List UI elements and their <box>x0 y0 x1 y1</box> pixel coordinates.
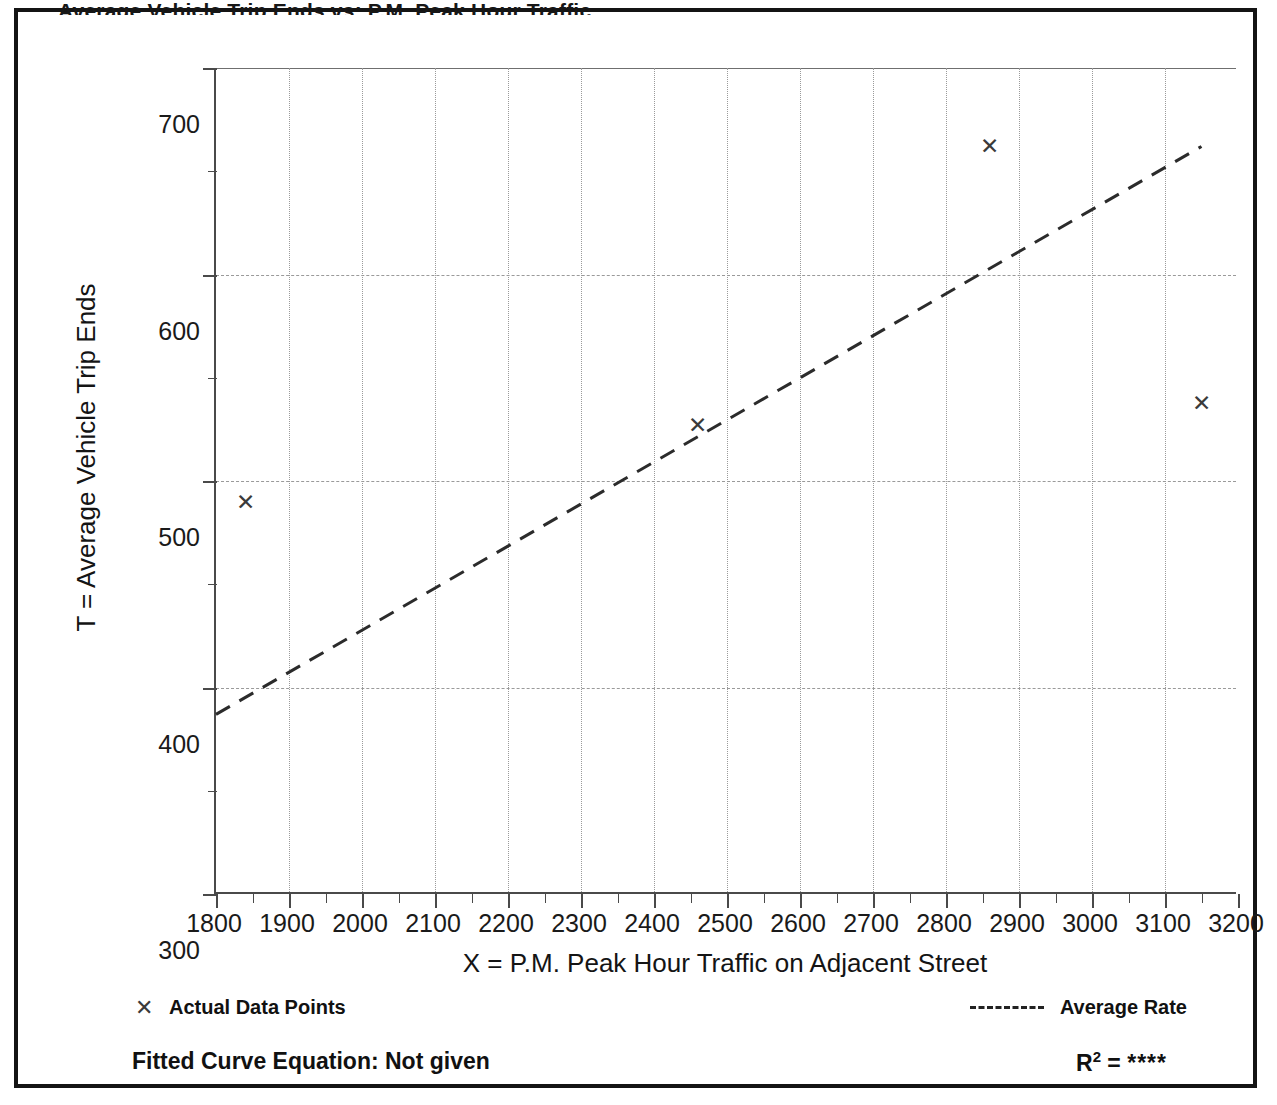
r-squared-label: R <box>1076 1050 1093 1076</box>
x-tick-label: 3000 <box>1062 909 1118 938</box>
x-tick <box>1092 894 1094 908</box>
page-title: Average Vehicle Trip Ends vs: P.M. Peak … <box>58 0 591 15</box>
x-tick-label: 2300 <box>551 909 607 938</box>
x-tick-minor <box>253 894 254 903</box>
x-axis-title: X = P.M. Peak Hour Traffic on Adjacent S… <box>214 948 1236 979</box>
y-axis-title: T = Average Vehicle Trip Ends <box>71 178 102 738</box>
y-tick-label: 600 <box>158 316 200 345</box>
gridline-vertical <box>508 68 509 892</box>
x-tick <box>435 894 437 908</box>
x-tick <box>289 894 291 908</box>
chart-frame: Average Vehicle Trip Ends vs: P.M. Peak … <box>14 8 1257 1088</box>
r-squared-exponent: 2 <box>1093 1048 1101 1065</box>
r-squared-annotation: R2 = **** <box>1076 1048 1167 1077</box>
x-tick-minor <box>1202 894 1203 903</box>
x-tick-minor <box>910 894 911 903</box>
y-tick <box>203 894 217 896</box>
average-rate-trendline <box>216 68 1236 892</box>
x-tick <box>581 894 583 908</box>
legend-item-actual-data-points: ✕ Actual Data Points <box>135 996 346 1019</box>
x-tick-minor <box>326 894 327 903</box>
x-tick-label: 2800 <box>916 909 972 938</box>
gridline-vertical <box>1092 68 1093 892</box>
x-tick <box>654 894 656 908</box>
x-tick-label: 2100 <box>405 909 461 938</box>
x-tick <box>800 894 802 908</box>
x-tick-label: 2700 <box>843 909 899 938</box>
x-tick <box>727 894 729 908</box>
legend-label-average-rate: Average Rate <box>1060 996 1187 1019</box>
chart-legend: ✕ Actual Data Points Average Rate <box>32 996 1275 1036</box>
x-tick-label: 1800 <box>186 909 242 938</box>
x-tick-label: 2600 <box>770 909 826 938</box>
x-tick <box>946 894 948 908</box>
gridline-vertical <box>654 68 655 892</box>
y-tick-minor <box>208 791 217 792</box>
x-tick-minor <box>618 894 619 903</box>
data-point-marker: ✕ <box>1191 392 1213 414</box>
x-axis-tick-labels: 1800190020002100220023002400250026002700… <box>214 909 1236 943</box>
gridline-vertical <box>946 68 947 892</box>
y-tick-label: 300 <box>158 936 200 965</box>
x-tick-label: 2500 <box>697 909 753 938</box>
dashed-line-icon <box>970 1006 1044 1009</box>
legend-label-actual-data-points: Actual Data Points <box>169 996 346 1019</box>
gridline-vertical <box>873 68 874 892</box>
gridline-vertical <box>289 68 290 892</box>
y-tick-minor <box>208 378 217 379</box>
r-squared-value: **** <box>1127 1050 1167 1076</box>
x-tick <box>873 894 875 908</box>
y-axis-tick-labels: 300400500600700 <box>118 68 200 894</box>
x-tick-minor <box>1056 894 1057 903</box>
x-tick <box>216 894 218 908</box>
chart-footer: Fitted Curve Equation: Not given R2 = **… <box>32 1048 1275 1092</box>
plot-top-border <box>216 68 1236 69</box>
x-tick-minor <box>545 894 546 903</box>
gridline-vertical <box>800 68 801 892</box>
gridline-vertical <box>1019 68 1020 892</box>
plot-area: ✕✕✕✕ <box>214 68 1236 894</box>
x-tick-label: 2000 <box>332 909 388 938</box>
gridline-horizontal <box>216 688 1236 689</box>
x-tick-minor <box>691 894 692 903</box>
x-tick-label: 3100 <box>1135 909 1191 938</box>
data-point-marker: ✕ <box>979 135 1001 157</box>
r-squared-equals: = <box>1107 1050 1120 1076</box>
x-tick-label: 2900 <box>989 909 1045 938</box>
gridline-vertical <box>727 68 728 892</box>
data-point-marker: ✕ <box>234 491 256 513</box>
y-tick-label: 500 <box>158 523 200 552</box>
x-tick-minor <box>837 894 838 903</box>
x-tick-minor <box>983 894 984 903</box>
x-marker-icon: ✕ <box>135 997 153 1019</box>
x-tick-minor <box>399 894 400 903</box>
y-tick <box>203 275 217 277</box>
gridline-horizontal <box>216 275 1236 276</box>
x-tick <box>1238 894 1240 908</box>
gridline-vertical <box>362 68 363 892</box>
y-tick <box>203 68 217 70</box>
x-tick-label: 3200 <box>1208 909 1264 938</box>
x-tick <box>1165 894 1167 908</box>
chart-page: Average Vehicle Trip Ends vs: P.M. Peak … <box>0 0 1277 1105</box>
x-tick-label: 2200 <box>478 909 534 938</box>
y-tick-label: 400 <box>158 729 200 758</box>
y-tick-label: 700 <box>158 110 200 139</box>
gridline-vertical <box>435 68 436 892</box>
y-tick-minor <box>208 171 217 172</box>
y-tick <box>203 688 217 690</box>
gridline-vertical <box>1165 68 1166 892</box>
legend-item-average-rate: Average Rate <box>970 996 1187 1019</box>
fitted-curve-equation: Fitted Curve Equation: Not given <box>132 1048 490 1075</box>
x-tick-label: 1900 <box>259 909 315 938</box>
x-tick <box>1019 894 1021 908</box>
gridline-horizontal <box>216 481 1236 482</box>
gridline-vertical <box>581 68 582 892</box>
x-tick-minor <box>764 894 765 903</box>
x-tick-label: 2400 <box>624 909 680 938</box>
x-tick <box>508 894 510 908</box>
y-tick-minor <box>208 584 217 585</box>
data-point-marker: ✕ <box>687 414 709 436</box>
y-tick <box>203 481 217 483</box>
x-tick-minor <box>472 894 473 903</box>
